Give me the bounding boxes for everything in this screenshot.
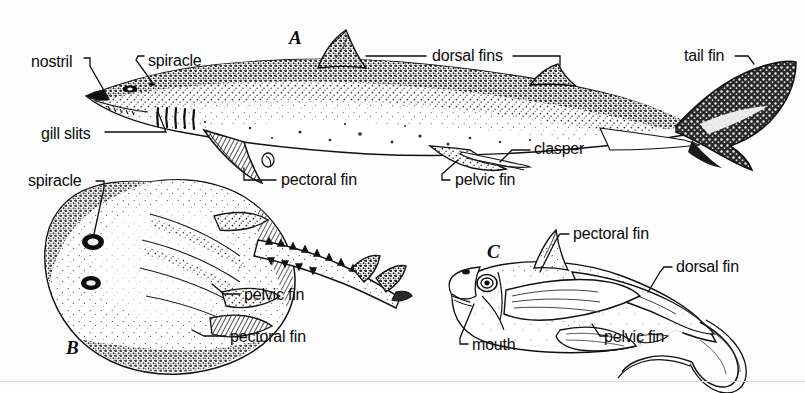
label-shark-nostril: nostril (31, 54, 72, 70)
label-skate-spiracle: spiracle (28, 173, 82, 189)
label-shark-dorsal-fins: dorsal fins (432, 48, 503, 64)
illustration-plate: A B C nostril spiracle gill slits dorsal… (0, 0, 805, 393)
label-chimaera-dorsal-fin: dorsal fin (676, 259, 739, 275)
shark-spiracle (149, 82, 155, 86)
label-skate-pelvic-fin: pelvic fin (244, 287, 304, 303)
label-chimaera-mouth: mouth (472, 337, 515, 353)
shark-nostril (103, 95, 108, 98)
figure-letter-a: A (289, 27, 302, 49)
label-shark-pelvic-fin: pelvic fin (455, 172, 515, 188)
label-shark-tail-fin: tail fin (684, 48, 724, 64)
label-chimaera-pelvic-fin: pelvic fin (604, 329, 664, 345)
label-shark-clasper: clasper (534, 141, 584, 157)
label-shark-spiracle: spiracle (148, 53, 202, 69)
figure-letter-b: B (66, 337, 79, 359)
label-shark-gill-slits: gill slits (41, 126, 91, 142)
figure-letter-c: C (487, 241, 500, 263)
label-chimaera-pectoral-fin: pectoral fin (573, 226, 649, 242)
label-shark-pectoral-fin: pectoral fin (281, 172, 357, 188)
label-skate-pectoral-fin: pectoral fin (230, 329, 306, 345)
